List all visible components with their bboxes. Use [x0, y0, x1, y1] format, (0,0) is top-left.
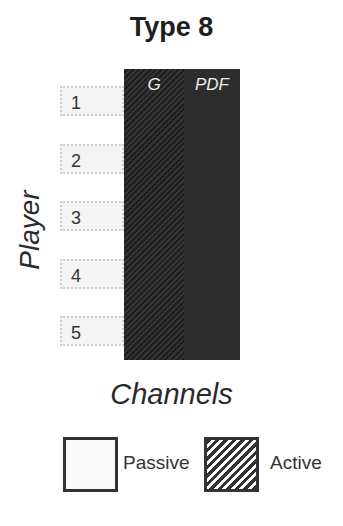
player-row-1: 1: [60, 86, 124, 116]
player-row-3: 3: [60, 201, 124, 231]
channel-header-pdf: PDF: [184, 75, 240, 95]
legend-active-label: Active: [270, 452, 322, 474]
x-axis-label: Channels: [0, 378, 343, 411]
diagram-title: Type 8: [0, 12, 343, 43]
player-row-5: 5: [60, 316, 124, 346]
channel-grid: G PDF: [124, 69, 240, 360]
y-axis-label: Player: [10, 175, 50, 285]
legend-active-swatch: [204, 437, 259, 492]
player-row-2: 2: [60, 144, 124, 174]
channel-column-pdf: PDF: [184, 69, 240, 360]
channel-column-g: G: [124, 69, 184, 360]
channel-header-g: G: [124, 75, 184, 95]
player-row-4: 4: [60, 259, 124, 289]
legend-passive-swatch: [63, 437, 118, 492]
legend-passive-label: Passive: [123, 452, 190, 474]
